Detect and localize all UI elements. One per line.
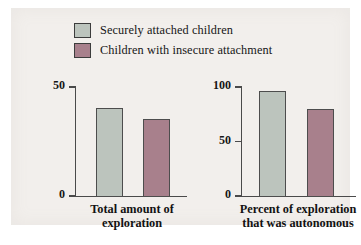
- bar-right-secure: [259, 91, 286, 197]
- legend-label-secure: Securely attached children: [100, 23, 233, 38]
- x-axis-label-right-line1: Percent of exploration: [237, 202, 359, 216]
- x-axis-label-right-line2: that was autonomous: [237, 216, 359, 230]
- legend: Securely attached children Children with…: [74, 20, 334, 60]
- y-tick-right-0: 0: [235, 195, 242, 196]
- chart-percent-autonomous: 100 50 0 Percent of exploration that was…: [199, 78, 359, 203]
- x-axis-label-left: Total amount of exploration: [73, 202, 191, 230]
- bar-right-insecure: [307, 109, 334, 197]
- legend-item-secure: Securely attached children: [74, 20, 334, 40]
- legend-label-insecure: Children with insecure attachment: [100, 43, 272, 58]
- y-tick-label-left-50: 50: [53, 78, 65, 93]
- legend-swatch-insecure-icon: [74, 43, 91, 58]
- legend-swatch-secure-icon: [74, 23, 91, 38]
- y-tick-left-50: 50: [69, 86, 76, 87]
- y-tick-left-0: 0: [69, 195, 76, 196]
- plot-area-right: 100 50 0: [199, 78, 359, 203]
- x-axis-left: [75, 196, 187, 197]
- bar-left-insecure: [143, 119, 170, 197]
- y-tick-label-left-0: 0: [59, 187, 65, 202]
- y-tick-label-right-100: 100: [213, 78, 231, 93]
- y-tick-label-right-0: 0: [225, 187, 231, 202]
- x-axis-label-left-line1: Total amount of: [73, 202, 191, 216]
- y-tick-label-right-50: 50: [219, 133, 231, 148]
- y-tick-right-50: 50: [235, 141, 242, 142]
- chart-total-exploration: 50 0 Total amount of exploration: [33, 78, 191, 203]
- plot-area-left: 50 0: [33, 78, 191, 203]
- legend-item-insecure: Children with insecure attachment: [74, 40, 334, 60]
- bar-left-secure: [96, 108, 123, 197]
- y-tick-right-100: 100: [235, 86, 242, 87]
- x-axis-label-left-line2: exploration: [73, 216, 191, 230]
- y-axis-left: [75, 87, 76, 197]
- x-axis-label-right: Percent of exploration that was autonomo…: [237, 202, 359, 230]
- chart-panel: Securely attached children Children with…: [11, 8, 350, 225]
- figure-root: Securely attached children Children with…: [0, 0, 361, 245]
